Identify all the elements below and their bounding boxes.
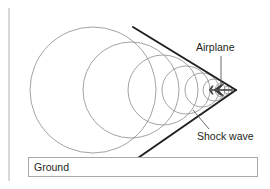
- wavefront-circle: [83, 42, 179, 138]
- wavefront-circle: [128, 55, 198, 125]
- shock-wave-label: Shock wave: [197, 130, 254, 142]
- wavefront-circle: [30, 27, 156, 153]
- shock-wave-line-lower: [135, 90, 236, 160]
- figure-canvas: Airplane Shock wave Ground: [0, 0, 270, 189]
- shockwave-leader-line: [193, 110, 209, 129]
- airplane-label: Airplane: [196, 41, 235, 53]
- airplane-icon: [209, 84, 236, 96]
- ground-label: Ground: [34, 161, 69, 173]
